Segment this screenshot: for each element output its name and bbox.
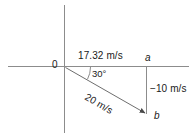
vector-diagram: 0 17.32 m/s 30° a b −10 m/s 20 m/s [0, 0, 192, 138]
origin-label: 0 [52, 60, 58, 70]
angle-label: 30° [92, 69, 106, 79]
point-b-label: b [154, 111, 160, 121]
angle-arc [88, 67, 91, 79]
point-a-label: a [145, 53, 151, 63]
vertical-component-label: −10 m/s [150, 84, 187, 94]
horizontal-component-label: 17.32 m/s [78, 51, 123, 61]
